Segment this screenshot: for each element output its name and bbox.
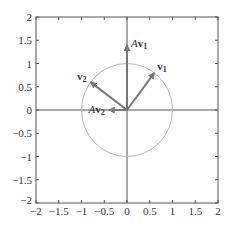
vector-label-v1: v1 <box>157 60 167 74</box>
y-tick-label: 1.5 <box>18 34 32 46</box>
y-tick-label: 0.5 <box>18 81 32 93</box>
y-tick-label: −0.5 <box>12 127 32 139</box>
vectors: v1v2Av1Av2 <box>77 37 167 117</box>
y-tick-label: −1.5 <box>12 174 32 186</box>
vector-label-Av1: Av1 <box>130 37 147 51</box>
eigenvector-plot: −2−1.5−1−0.500.511.5221.510.50−0.5−1−1.5… <box>0 0 228 227</box>
y-tick-label: 2 <box>27 11 33 23</box>
axis-ticks: −2−1.5−1−0.500.511.5221.510.50−0.5−1−1.5… <box>12 11 221 217</box>
x-tick-label: 2 <box>215 205 221 217</box>
vector-v1 <box>127 73 154 110</box>
x-tick-label: 1 <box>170 205 176 217</box>
vector-label-Av2: Av2 <box>88 103 105 117</box>
x-tick-label: −1.5 <box>49 205 69 217</box>
x-tick-label: 1.5 <box>188 205 202 217</box>
x-tick-label: −2 <box>30 205 42 217</box>
y-tick-label: 0 <box>27 104 33 116</box>
x-tick-label: 0 <box>124 205 130 217</box>
y-tick-label: 1 <box>27 58 33 70</box>
vector-label-v2: v2 <box>77 70 87 84</box>
x-tick-label: −1 <box>76 205 88 217</box>
y-tick-label: −1 <box>20 151 32 163</box>
y-tick-label: −2 <box>20 194 32 206</box>
x-tick-label: −0.5 <box>94 205 114 217</box>
x-tick-label: 0.5 <box>143 205 157 217</box>
